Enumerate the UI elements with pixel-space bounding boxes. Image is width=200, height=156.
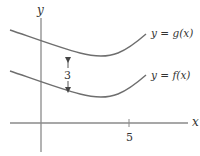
shift-label: 3 <box>64 69 71 82</box>
curve-f <box>10 71 146 97</box>
curve-f-label: y = f(x) <box>150 69 190 81</box>
plot-svg: 3 y x 5 y = g(x) y = f(x) <box>0 0 200 156</box>
x-tick-label-5: 5 <box>126 131 133 144</box>
y-axis-label: y <box>36 3 44 17</box>
curve-g <box>10 30 146 56</box>
curve-g-label: y = g(x) <box>150 27 193 39</box>
function-shift-diagram: 3 y x 5 y = g(x) y = f(x) <box>0 0 200 156</box>
x-axis-label: x <box>192 115 199 129</box>
